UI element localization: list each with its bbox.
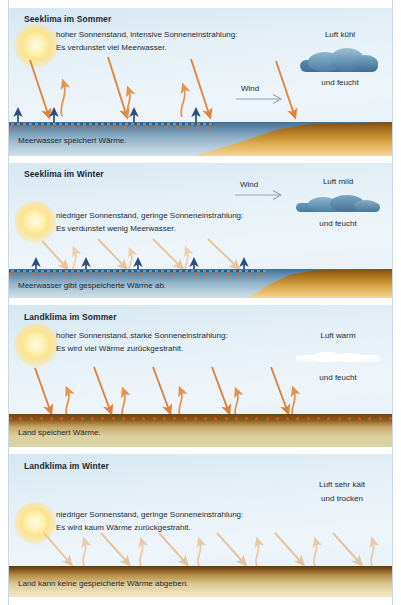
heat-dot-row bbox=[10, 272, 262, 277]
ground-label: Land speichert Wärme. bbox=[18, 428, 101, 437]
heat-dot-row bbox=[9, 416, 392, 421]
ground-label: Meerwasser speichert Wärme. bbox=[18, 136, 126, 145]
panel-seeklima-sommer: Seeklima im Sommer hoher Sonnenstand, in… bbox=[8, 8, 393, 156]
sea-surface: Meerwasser speichert Wärme. bbox=[8, 122, 393, 156]
heat-dot-row bbox=[10, 125, 210, 130]
sea-surface: Meerwasser gibt gespeicherte Wärme ab. bbox=[8, 269, 393, 298]
panel-landklima-sommer: Landklima im Sommer hoher Sonnenstand, s… bbox=[8, 305, 393, 447]
climate-diagram-figure: Seeklima im Sommer hoher Sonnenstand, in… bbox=[0, 0, 401, 605]
panel-landklima-winter: Landklima im Winter niedriger Sonnenstan… bbox=[8, 454, 393, 597]
ground-label: Meerwasser gibt gespeicherte Wärme ab. bbox=[18, 281, 166, 290]
ground-label: Land kann keine gespeicherte Wärme abgeb… bbox=[18, 579, 188, 588]
panel-seeklima-winter: Seeklima im Winter niedriger Sonnenstand… bbox=[8, 163, 393, 298]
page-edge-right bbox=[392, 0, 393, 605]
page-edge-left bbox=[8, 0, 9, 605]
land-surface: Land kann keine gespeicherte Wärme abgeb… bbox=[8, 566, 393, 597]
land-surface: Land speichert Wärme. bbox=[8, 414, 393, 447]
